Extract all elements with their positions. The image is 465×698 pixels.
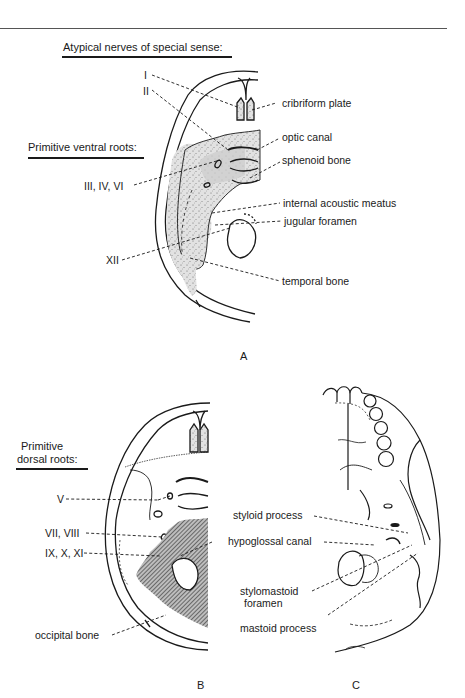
panel-letter-a: A bbox=[240, 350, 247, 362]
label-nerves-iii-iv-vi: III, IV, VI bbox=[84, 180, 123, 192]
panel-a-heading-ventral-roots-underline bbox=[28, 157, 144, 159]
label-styloid-process: styloid process bbox=[233, 509, 302, 521]
panel-letter-b: B bbox=[197, 679, 204, 691]
panel-a-heading-special-sense: Atypical nerves of special sense: bbox=[63, 41, 223, 54]
label-nerves-vii-viii: VII, VIII bbox=[45, 527, 79, 539]
panel-a-heading-special-sense-underline bbox=[62, 56, 232, 58]
panel-a-heading-ventral-roots: Primitive ventral roots: bbox=[28, 141, 137, 154]
label-stylomastoid-line1: stylomastoid bbox=[240, 585, 298, 597]
panel-b-heading-line2: dorsal roots: bbox=[17, 453, 78, 466]
label-sphenoid-bone: sphenoid bone bbox=[282, 154, 351, 166]
panel-b-drawing bbox=[105, 403, 210, 650]
label-jugular-foramen: jugular foramen bbox=[284, 215, 357, 227]
panel-b-heading-line1: Primitive bbox=[21, 440, 63, 453]
label-nerve-v: V bbox=[57, 493, 64, 505]
label-mastoid-process: mastoid process bbox=[240, 622, 316, 634]
panel-b-heading-underline bbox=[16, 468, 88, 470]
label-nerve-ii: II bbox=[143, 85, 149, 97]
label-internal-acoustic-meatus: internal acoustic meatus bbox=[283, 197, 396, 209]
panel-letter-c: C bbox=[352, 679, 360, 691]
label-temporal-bone: temporal bone bbox=[282, 275, 349, 287]
label-hypoglossal-canal: hypoglossal canal bbox=[228, 535, 311, 547]
panel-c-leaders bbox=[312, 516, 418, 615]
label-nerves-ix-x-xi: IX, X, XI bbox=[45, 547, 84, 559]
label-nerve-i: I bbox=[144, 69, 147, 81]
panel-c-drawing bbox=[323, 387, 440, 652]
label-cribriform-plate: cribriform plate bbox=[282, 97, 351, 109]
anatomy-drawings bbox=[0, 0, 465, 698]
panel-a-drawing bbox=[155, 71, 260, 322]
label-occipital-bone: occipital bone bbox=[35, 629, 99, 641]
label-nerve-xii: XII bbox=[106, 254, 119, 266]
label-optic-canal: optic canal bbox=[282, 131, 332, 143]
label-stylomastoid-line2: foramen bbox=[244, 597, 283, 609]
